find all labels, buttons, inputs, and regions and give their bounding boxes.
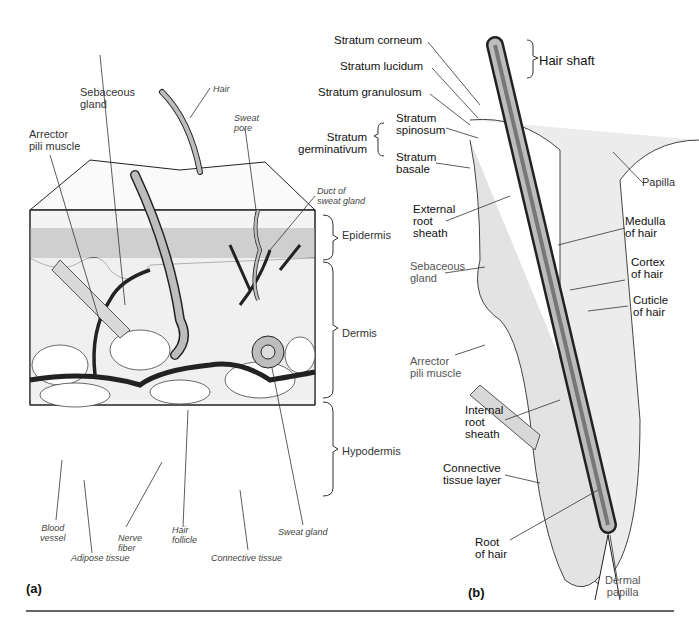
label-epidermis: Epidermis: [342, 229, 391, 241]
label-stratum-lucidum: Stratum lucidum: [340, 60, 423, 72]
label-connective-tissue: Connective tissue: [211, 553, 282, 563]
label-papilla: Papilla: [642, 176, 675, 188]
label-cuticle-of-hair: Cuticle of hair: [633, 294, 668, 318]
label-hypodermis: Hypodermis: [342, 445, 401, 457]
label-duct-of-sweat-gland: Duct of sweat gland: [317, 186, 365, 206]
label-stratum-granulosum: Stratum granulosum: [318, 86, 422, 98]
label-stratum-germinativum: Stratum germinativum: [298, 131, 367, 155]
label-stratum-spinosum: Stratum spinosum: [396, 112, 445, 136]
label-dermal-papilla: Dermal papilla: [605, 574, 640, 598]
label-hair: Hair: [213, 84, 230, 94]
panel-a-label: (a): [26, 581, 42, 596]
label-connective-tissue-layer: Connective tissue layer: [443, 462, 501, 486]
label-sebaceous-gland-a: Sebaceous gland: [80, 86, 135, 110]
label-stratum-corneum: Stratum corneum: [334, 34, 422, 46]
label-adipose-tissue: Adipose tissue: [71, 553, 130, 563]
label-stratum-basale: Stratum basale: [396, 151, 436, 175]
panel-b-label: (b): [468, 585, 485, 600]
label-root-of-hair: Root of hair: [475, 536, 507, 560]
label-sweat-pore: Sweat pore: [234, 113, 259, 133]
label-external-root-sheath: External root sheath: [413, 203, 455, 239]
label-sebaceous-gland-b: Sebaceous gland: [410, 260, 465, 284]
label-arrector-pili-b: Arrector pili muscle: [410, 355, 461, 379]
label-medulla-of-hair: Medulla of hair: [625, 215, 665, 239]
label-arrector-pili-a: Arrector pili muscle: [29, 128, 80, 152]
label-hair-follicle-a: Hair follicle: [172, 525, 197, 545]
label-internal-root-sheath: Internal root sheath: [465, 404, 503, 440]
skin-block-a: [30, 55, 338, 496]
label-blood-vessel: Blood vessel: [40, 523, 66, 543]
label-dermis: Dermis: [342, 327, 377, 339]
label-sweat-gland: Sweat gland: [278, 527, 328, 537]
label-cortex-of-hair: Cortex of hair: [631, 256, 665, 280]
bottom-rule: [26, 610, 674, 612]
label-hair-shaft: Hair shaft: [539, 55, 595, 67]
label-nerve-fiber: Nerve fiber: [118, 533, 142, 553]
